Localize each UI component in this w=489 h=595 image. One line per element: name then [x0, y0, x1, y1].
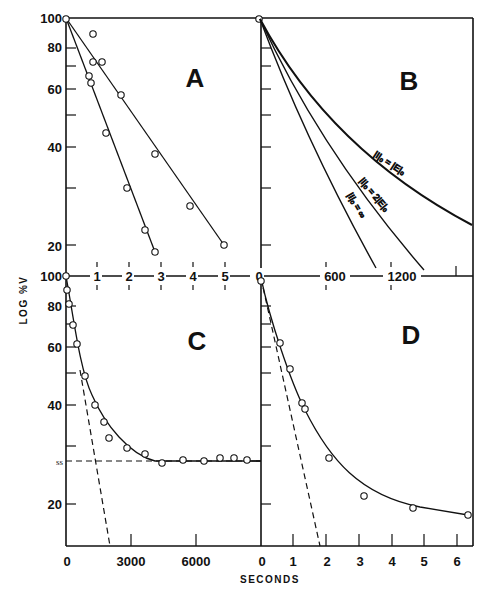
svg-text:5: 5 — [221, 269, 228, 284]
y-axis-title: LOG %V — [18, 275, 29, 324]
y-axis-bottom: 100 80 60 40 20 ss — [40, 269, 271, 512]
svg-text:5: 5 — [420, 554, 427, 569]
y-axis-top: 100 80 60 40 20 — [40, 11, 271, 254]
svg-text:60: 60 — [48, 82, 62, 97]
svg-text:0: 0 — [63, 554, 70, 569]
panel-b-label: B — [400, 66, 419, 96]
svg-text:1200: 1200 — [388, 269, 417, 284]
x-axis-bottom: 0 3000 6000 0 1 2 3 4 5 6 SECONDS — [63, 534, 460, 585]
svg-text:100: 100 — [40, 269, 62, 284]
svg-text:4: 4 — [388, 554, 396, 569]
svg-text:40: 40 — [48, 140, 62, 155]
svg-text:3000: 3000 — [117, 554, 146, 569]
panel-a-plot — [63, 16, 227, 255]
svg-text:600: 600 — [324, 269, 346, 284]
x-axis-title: SECONDS — [240, 574, 300, 585]
panel-d-label: D — [402, 320, 421, 350]
svg-text:6: 6 — [453, 554, 460, 569]
svg-text:80: 80 — [48, 299, 62, 314]
svg-text:20: 20 — [48, 239, 62, 254]
svg-text:4: 4 — [189, 269, 197, 284]
ss-label: ss — [56, 457, 64, 467]
panel-a-label: A — [186, 63, 205, 93]
panel-d-plot — [258, 278, 471, 546]
svg-text:1: 1 — [289, 554, 296, 569]
panel-c-plot — [63, 273, 261, 546]
svg-text:20: 20 — [48, 497, 62, 512]
svg-text:1: 1 — [93, 269, 100, 284]
svg-text:80: 80 — [48, 40, 62, 55]
svg-text:2: 2 — [125, 269, 132, 284]
svg-text:40: 40 — [48, 398, 62, 413]
svg-text:0: 0 — [258, 554, 265, 569]
svg-text:2: 2 — [323, 554, 330, 569]
panel-b-plot: |I|₀ = |E|₀ |I|₀ = 2|E|₀ |I|₀ = ∞ — [256, 16, 472, 270]
svg-text:60: 60 — [48, 340, 62, 355]
figure-canvas: 100 80 60 40 20 100 80 60 40 20 ss — [0, 0, 489, 595]
svg-text:6000: 6000 — [182, 554, 211, 569]
svg-text:100: 100 — [40, 11, 62, 26]
panel-c-label: C — [188, 326, 207, 356]
svg-text:3: 3 — [356, 554, 363, 569]
svg-text:3: 3 — [157, 269, 164, 284]
